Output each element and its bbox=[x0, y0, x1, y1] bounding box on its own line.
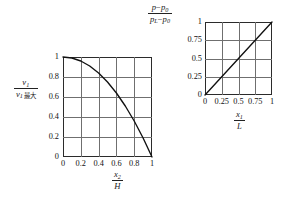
right-ytick-1: 1 bbox=[182, 18, 202, 26]
right-ytick-0.75: 0.75 bbox=[182, 36, 202, 44]
pressure-curve bbox=[205, 22, 272, 95]
left-ylabel-numerator: v1 bbox=[14, 78, 38, 88]
left-ytick-0.8: 0.8 bbox=[40, 73, 59, 81]
left-xtick-0.2: 0.2 bbox=[76, 160, 86, 168]
left-xtick-1: 1 bbox=[150, 160, 154, 168]
left-ylabel: v1 v1最大 bbox=[14, 78, 38, 99]
left-ytick-0.2: 0.2 bbox=[40, 133, 59, 141]
left-xtick-0.4: 0.4 bbox=[93, 160, 103, 168]
right-xlabel-denominator: L bbox=[234, 120, 245, 131]
right-ylabel-denominator: pL−p0 bbox=[148, 13, 172, 24]
left-ytick-0.6: 0.6 bbox=[40, 93, 59, 101]
right-ylabel-numerator: p−p0 bbox=[148, 3, 172, 13]
velocity-profile-chart bbox=[63, 57, 152, 157]
right-ytick-0: 0 bbox=[182, 91, 202, 99]
right-ylabel: p−p0 pL−p0 bbox=[148, 3, 172, 24]
figure-root: 0 0.2 0.4 0.6 0.8 1 1 0.8 0.6 0.4 0.2 0 … bbox=[0, 0, 286, 201]
left-xtick-0.8: 0.8 bbox=[129, 160, 139, 168]
right-xlabel-numerator: x1 bbox=[234, 110, 245, 120]
left-ytick-1: 1 bbox=[40, 53, 59, 61]
left-xlabel-numerator: x2 bbox=[112, 170, 123, 180]
right-xtick-1: 1 bbox=[270, 98, 274, 106]
left-ytick-0: 0 bbox=[40, 153, 59, 161]
left-ytick-0.4: 0.4 bbox=[40, 113, 59, 121]
right-xlabel: x1 L bbox=[234, 110, 245, 131]
velocity-curve bbox=[63, 57, 152, 157]
left-xlabel: x2 H bbox=[112, 170, 123, 191]
left-xtick-0: 0 bbox=[61, 160, 65, 168]
right-xtick-0: 0 bbox=[203, 98, 207, 106]
pressure-profile-chart bbox=[205, 22, 272, 95]
right-xtick-0.5: 0.5 bbox=[233, 98, 243, 106]
right-ytick-0.25: 0.25 bbox=[182, 73, 202, 81]
right-xtick-0.75: 0.75 bbox=[248, 98, 263, 106]
right-xtick-0.25: 0.25 bbox=[214, 98, 229, 106]
left-xtick-0.6: 0.6 bbox=[111, 160, 121, 168]
right-ytick-0.5: 0.5 bbox=[182, 54, 202, 62]
left-xlabel-denominator: H bbox=[112, 180, 123, 191]
left-ylabel-denominator: v1最大 bbox=[14, 88, 38, 99]
